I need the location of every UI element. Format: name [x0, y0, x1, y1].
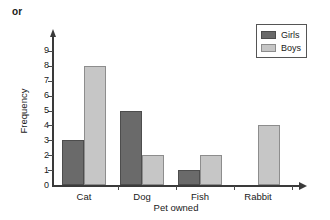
x-axis-title: Pet owned — [52, 202, 300, 213]
bar-chart-figure: or 0123456789 CatDogFishRabbit Frequency… — [0, 0, 330, 220]
x-axis-tick-mark — [176, 186, 177, 190]
legend-label-girls: Girls — [281, 30, 300, 40]
x-axis-label-dog: Dog — [133, 191, 150, 202]
y-axis-tick-label: 2 — [44, 149, 49, 161]
y-axis-tick-label: 9 — [44, 44, 49, 56]
y-axis-title: Frequency — [18, 36, 30, 186]
y-axis-tick-label: 7 — [44, 74, 49, 86]
y-axis-tick-label: 6 — [44, 89, 49, 101]
bar-dog-boys — [142, 155, 164, 185]
x-axis-tick-mark — [234, 186, 235, 190]
y-axis-tick-label: 3 — [44, 134, 49, 146]
legend-item-boys: Boys — [261, 41, 301, 54]
bar-cat-girls — [62, 140, 84, 185]
x-axis-label-cat: Cat — [77, 191, 92, 202]
legend-swatch-boys — [261, 44, 276, 52]
plot-area: 0123456789 CatDogFishRabbit — [52, 36, 308, 186]
bar-rabbit-boys — [258, 125, 280, 185]
legend-swatch-girls — [261, 31, 276, 39]
bar-fish-girls — [178, 170, 200, 185]
legend-label-boys: Boys — [281, 43, 301, 53]
bar-dog-girls — [120, 111, 142, 186]
x-axis-tick-mark — [118, 186, 119, 190]
y-axis-tick-label: 1 — [44, 164, 49, 176]
bar-cat-boys — [84, 66, 106, 185]
x-axis-label-fish: Fish — [191, 191, 209, 202]
bar-fish-boys — [200, 155, 222, 185]
x-axis-label-rabbit: Rabbit — [244, 191, 271, 202]
x-axis-arrow-icon — [299, 182, 307, 190]
y-axis-tick-label: 8 — [44, 59, 49, 71]
x-axis-tick-mark — [292, 186, 293, 190]
y-axis-tick-label: 4 — [44, 119, 49, 131]
y-axis-tick-label: 5 — [44, 104, 49, 116]
chart-legend: GirlsBoys — [256, 24, 307, 58]
y-axis-arrow-icon — [50, 29, 56, 37]
legend-item-girls: Girls — [261, 28, 301, 41]
prefix-note: or — [12, 6, 22, 17]
y-axis-tick-label: 0 — [44, 179, 49, 191]
